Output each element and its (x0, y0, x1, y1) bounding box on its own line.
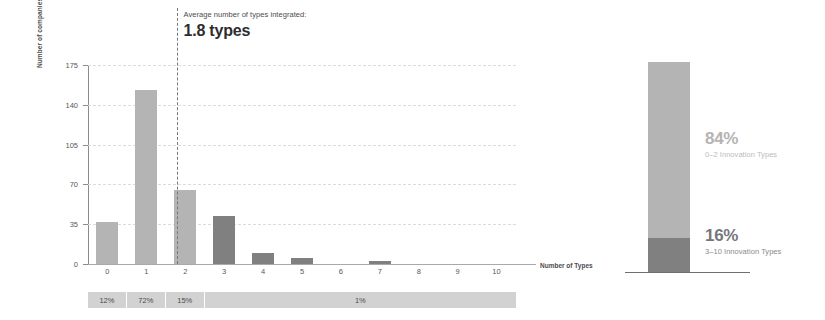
percent-segment: 15% (166, 292, 205, 308)
x-tick-label: 3 (207, 267, 241, 276)
y-tick-label: 35 (42, 220, 78, 229)
x-tick-label: 4 (246, 267, 280, 276)
percent-segment: 1% (205, 292, 516, 308)
stacked-label-3-10: 16% 3–10 Innovation Types (705, 227, 781, 256)
stacked-segment-3-10 (648, 238, 690, 272)
x-axis-title: Number of Types (540, 262, 593, 269)
stacked-desc-3-10: 3–10 Innovation Types (705, 247, 781, 256)
y-axis-title: Number of companies (36, 0, 48, 68)
stacked-label-0-2: 84% 0–2 Innovation Types (705, 130, 777, 159)
bar (213, 216, 235, 264)
x-tick-label: 5 (285, 267, 319, 276)
gridline (88, 65, 516, 66)
stacked-summary-panel: 84% 0–2 Innovation Types 16% 3–10 Innova… (600, 0, 825, 320)
average-marker-line (177, 8, 178, 264)
x-tick-label: 6 (324, 267, 358, 276)
average-annotation: Average number of types integrated: 1.8 … (183, 10, 413, 40)
bar (291, 258, 313, 264)
x-tick-label: 7 (363, 267, 397, 276)
stacked-desc-0-2: 0–2 Innovation Types (705, 150, 777, 159)
average-value: 1.8 types (183, 22, 413, 40)
x-tick-label: 9 (441, 267, 475, 276)
histogram-panel: Number of companies 03570105140175 01234… (0, 0, 600, 320)
percent-segment: 72% (127, 292, 166, 308)
y-tick-label: 175 (42, 61, 78, 70)
x-tick-label: 8 (402, 267, 436, 276)
stacked-segment-0-2 (648, 62, 690, 238)
bar (96, 222, 118, 264)
bar (135, 90, 157, 264)
y-tick-label: 105 (42, 141, 78, 150)
x-tick-label: 2 (168, 267, 202, 276)
bar (369, 261, 391, 264)
stacked-percent-3-10: 16% (705, 227, 781, 244)
x-tick-label: 10 (480, 267, 514, 276)
percent-distribution-strip: 12%72%15%1% (88, 292, 516, 308)
y-tick-label: 70 (42, 180, 78, 189)
stacked-bar (648, 62, 690, 272)
y-tick-label: 0 (42, 260, 78, 269)
average-caption: Average number of types integrated: (183, 10, 413, 19)
bar (252, 253, 274, 264)
y-tick-label: 140 (42, 101, 78, 110)
x-tick-label: 0 (90, 267, 124, 276)
percent-segment: 12% (88, 292, 127, 308)
stacked-percent-0-2: 84% (705, 130, 777, 147)
x-axis-line (88, 264, 536, 265)
x-tick-label: 1 (129, 267, 163, 276)
y-tick-mark (83, 264, 88, 265)
plot-area (88, 65, 516, 264)
stacked-bar-baseline (625, 272, 750, 273)
